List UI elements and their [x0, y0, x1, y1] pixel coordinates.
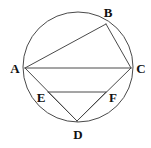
- vertex-label-c: C: [136, 62, 145, 75]
- svg-shape-layer: [23, 12, 133, 122]
- geometry-figure: ABCDEF: [0, 0, 151, 148]
- chord-b-c: [106, 24, 131, 68]
- vertex-label-b: B: [104, 6, 113, 19]
- vertex-label-a: A: [10, 62, 19, 75]
- vertex-label-d: D: [73, 128, 82, 141]
- main-circle: [23, 12, 133, 122]
- vertex-label-e: E: [37, 91, 46, 104]
- segment-e-d: [48, 92, 77, 121]
- vertex-label-f: F: [109, 91, 117, 104]
